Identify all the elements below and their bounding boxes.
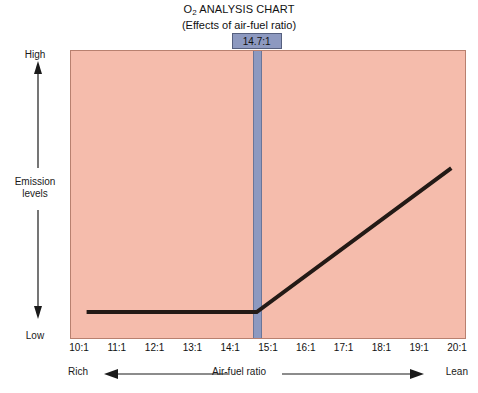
- plot-inner: [71, 51, 465, 338]
- x-tick-label: 17:1: [324, 342, 364, 353]
- stoichiometric-ratio-badge: 14.7:1: [232, 33, 282, 49]
- x-axis-direction-row: Rich Air-fuel ratio Lean: [0, 366, 478, 382]
- y-axis-low-label: Low: [0, 330, 70, 341]
- plot-area: [70, 50, 466, 339]
- x-tick-label: 13:1: [172, 342, 212, 353]
- x-tick-label: 15:1: [248, 342, 288, 353]
- x-tick-label: 11:1: [97, 342, 137, 353]
- x-tick-label: 12:1: [135, 342, 175, 353]
- y-axis-title-line2: levels: [0, 188, 70, 200]
- y-axis: High Emission levels Low: [0, 50, 70, 339]
- x-axis-ticks: 10:111:112:113:114:115:116:117:118:119:1…: [70, 342, 466, 356]
- y-axis-title-line1: Emission: [0, 176, 70, 188]
- page-title: O2 ANALYSIS CHART: [0, 3, 478, 19]
- x-tick-label: 14:1: [210, 342, 250, 353]
- title-prefix: O: [184, 3, 193, 15]
- emission-curve: [71, 51, 465, 338]
- x-axis-title: Air-fuel ratio: [0, 366, 478, 377]
- y-axis-high-label: High: [0, 49, 70, 60]
- chart-title-block: O2 ANALYSIS CHART (Effects of air-fuel r…: [0, 3, 478, 32]
- o2-analysis-chart: O2 ANALYSIS CHART (Effects of air-fuel r…: [0, 0, 478, 393]
- x-tick-label: 20:1: [437, 342, 477, 353]
- x-tick-label: 18:1: [361, 342, 401, 353]
- chart-subtitle: (Effects of air-fuel ratio): [0, 19, 478, 32]
- x-tick-label: 10:1: [59, 342, 99, 353]
- y-axis-title: Emission levels: [0, 176, 70, 200]
- x-tick-label: 19:1: [399, 342, 439, 353]
- x-tick-label: 16:1: [286, 342, 326, 353]
- x-axis-lean-label: Lean: [446, 366, 468, 377]
- title-suffix: ANALYSIS CHART: [197, 3, 295, 15]
